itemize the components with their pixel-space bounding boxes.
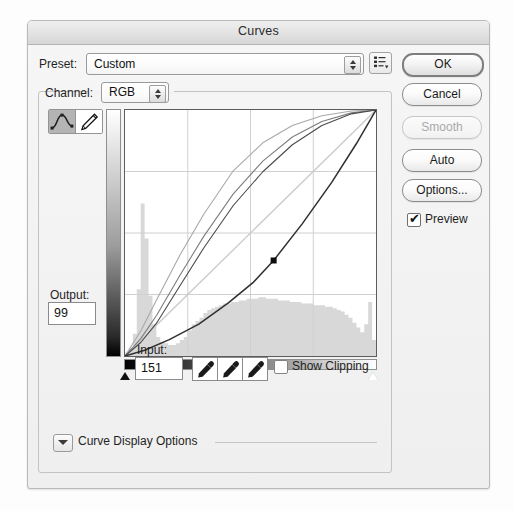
eyedropper-black-button[interactable] [193,358,218,380]
curve-display-options-label: Curve Display Options [78,434,197,448]
preset-stepper-icon[interactable] [344,56,361,74]
show-clipping-label: Show Clipping [292,359,369,373]
preview-checkbox[interactable]: ✔ [407,213,421,227]
input-label: Input: [137,343,167,357]
auto-button[interactable]: Auto [402,149,482,172]
smooth-button: Smooth [402,116,482,139]
preset-label: Preset: [39,57,77,71]
pencil-tool-button[interactable] [76,110,102,133]
preset-value: Custom [94,57,135,71]
eyedropper-group [192,357,268,381]
preset-dropdown[interactable]: Custom [86,53,364,75]
screenshot-root: Curves Preset: Custom Channel: RGB [0,0,514,511]
curve-tool-group [48,109,103,134]
eyedropper-gray-button[interactable] [218,358,243,380]
curve-plot-area[interactable] [124,109,377,357]
eyedropper-white-button[interactable] [243,358,267,380]
black-point-marker[interactable] [120,372,130,380]
curve-display-options-row[interactable]: Curve Display Options [53,434,377,452]
output-label: Output: [50,288,89,302]
output-gradient-bar [106,109,121,357]
ok-button[interactable]: OK [402,53,484,77]
output-input[interactable]: 99 [48,302,96,325]
checkmark-icon: ✔ [409,212,420,225]
dialog-title: Curves [28,24,489,38]
white-point-marker[interactable] [368,372,378,380]
preview-label: Preview [425,212,468,226]
options-button[interactable]: Options... [402,179,482,202]
eyedropper-gray-icon [218,358,242,380]
curve-plot-svg [125,110,376,356]
channel-label: Channel: [45,86,93,100]
channel-value: RGB [109,85,135,99]
cancel-button[interactable]: Cancel [402,83,482,106]
input-input[interactable]: 151 [135,357,183,380]
channel-dropdown[interactable]: RGB [101,82,169,103]
output-value: 99 [54,306,68,320]
channel-stepper-icon[interactable] [149,85,166,103]
curve-control-point[interactable] [271,257,277,263]
eyedropper-white-icon [243,358,267,380]
eyedropper-black-icon [193,358,217,380]
section-divider [215,442,377,443]
chevron-down-icon[interactable] [53,434,73,452]
curve-tool-button[interactable] [49,110,76,133]
curve-tool-icon [49,110,75,133]
input-value: 151 [141,361,162,375]
dialog-titlebar[interactable]: Curves [28,21,489,45]
show-clipping-checkbox[interactable] [274,360,288,374]
list-menu-icon [370,53,389,71]
preset-menu-icon[interactable] [369,52,392,74]
curves-dialog: Curves Preset: Custom Channel: RGB [27,20,490,489]
pencil-tool-icon [76,110,102,133]
curve-graph[interactable] [106,109,378,374]
